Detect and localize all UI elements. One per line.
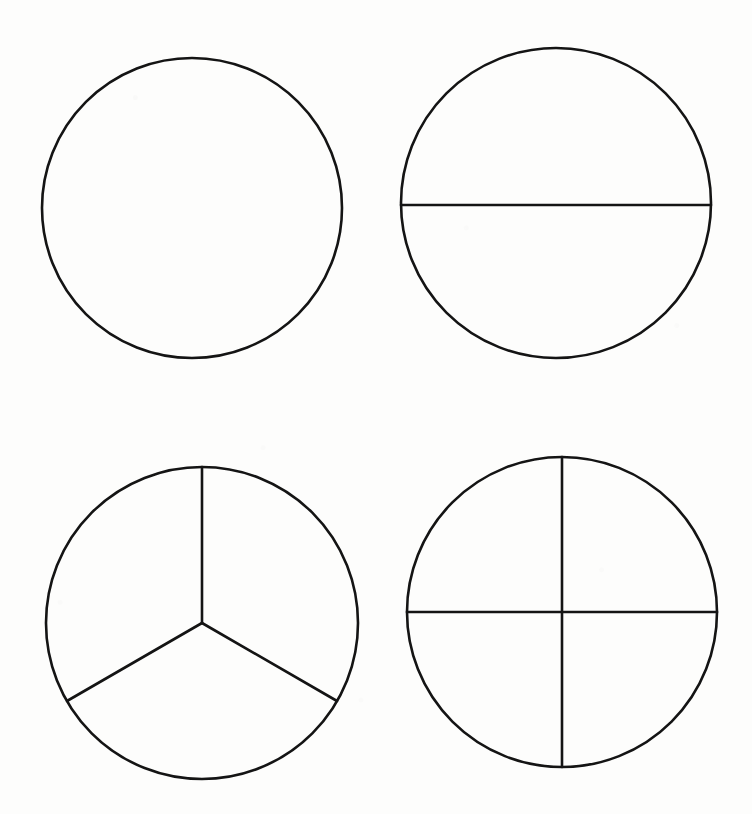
whole-circle-outline	[42, 58, 342, 358]
thirds-circle-radius-lower-left	[67, 623, 202, 701]
figure-thirds-circle[interactable]	[46, 467, 358, 779]
fraction-circles-figure	[0, 0, 752, 814]
thirds-circle-radius-lower-right	[202, 623, 337, 701]
worksheet-page	[0, 0, 752, 814]
figure-halved-circle[interactable]	[401, 48, 711, 358]
figure-whole-circle[interactable]	[42, 58, 342, 358]
halved-circle-outline	[401, 48, 711, 358]
figure-quarters-circle[interactable]	[407, 457, 717, 767]
